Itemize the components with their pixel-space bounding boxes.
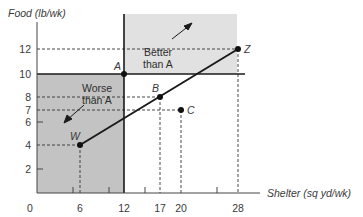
bundle-diagram: A B C W Z Better than A Worse than A 2 4… — [0, 0, 363, 217]
svg-text:28: 28 — [232, 202, 244, 214]
better-than-a-region — [124, 14, 237, 74]
point-c — [178, 107, 184, 113]
svg-text:12: 12 — [19, 43, 31, 55]
svg-text:6: 6 — [77, 202, 83, 214]
svg-text:8: 8 — [25, 91, 31, 103]
svg-text:17: 17 — [154, 202, 166, 214]
point-a — [121, 71, 127, 77]
point-b-label: B — [152, 82, 159, 94]
y-tick-labels: 2 4 6 7 8 10 12 — [19, 43, 31, 175]
y-axis-title: Food (lb/wk) — [8, 7, 66, 19]
worse-label-line1: Worse — [82, 82, 112, 94]
svg-text:0: 0 — [27, 202, 33, 214]
svg-text:6: 6 — [25, 116, 31, 128]
point-w-label: W — [70, 130, 81, 142]
point-a-label: A — [113, 60, 121, 72]
point-z — [235, 46, 241, 52]
worse-label-line2: than A — [82, 94, 112, 106]
point-c-label: C — [187, 104, 195, 116]
svg-text:12: 12 — [118, 202, 130, 214]
point-z-label: Z — [243, 43, 251, 55]
point-b — [157, 94, 163, 100]
svg-text:20: 20 — [175, 202, 187, 214]
better-label-line2: than A — [143, 58, 173, 70]
x-axis-title: Shelter (sq yd/wk) — [267, 187, 351, 199]
svg-text:2: 2 — [25, 163, 31, 175]
svg-text:4: 4 — [25, 139, 31, 151]
svg-text:10: 10 — [19, 68, 31, 80]
better-label-line1: Better — [144, 46, 173, 58]
x-tick-labels: 0 6 12 17 20 28 — [27, 202, 244, 214]
point-w — [77, 142, 83, 148]
svg-text:7: 7 — [25, 104, 31, 116]
